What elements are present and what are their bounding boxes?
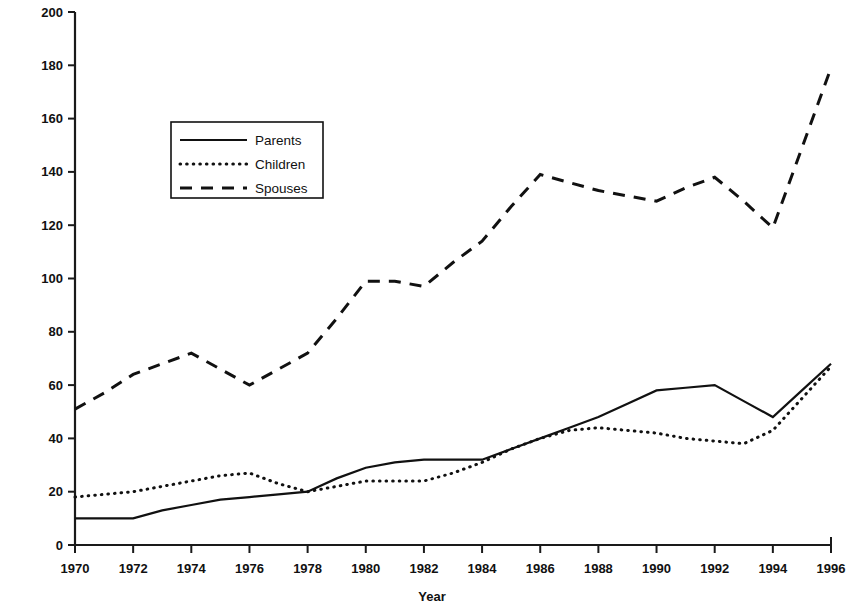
- y-tick-label: 0: [56, 538, 63, 553]
- x-tick-label: 1980: [351, 561, 380, 576]
- y-axis: 020406080100120140160180200: [41, 5, 75, 553]
- y-tick-label: 40: [49, 431, 63, 446]
- x-tick-label: 1994: [758, 561, 788, 576]
- x-tick-label: 1974: [177, 561, 207, 576]
- x-tick-label: 1996: [817, 561, 846, 576]
- x-tick-label: 1984: [468, 561, 498, 576]
- x-tick-label: 1978: [293, 561, 322, 576]
- chart-canvas: 020406080100120140160180200 197019721974…: [0, 0, 857, 614]
- x-axis: 1970197219741976197819801982198419861988…: [61, 537, 846, 576]
- x-axis-title: Year: [418, 589, 445, 604]
- y-tick-label: 180: [41, 58, 63, 73]
- y-tick-label: 200: [41, 5, 63, 20]
- y-tick-label: 160: [41, 111, 63, 126]
- x-tick-label: 1992: [700, 561, 729, 576]
- x-tick-label: 1970: [61, 561, 90, 576]
- y-tick-label: 20: [49, 484, 63, 499]
- y-tick-label: 60: [49, 378, 63, 393]
- y-tick-label: 120: [41, 218, 63, 233]
- y-tick-label: 80: [49, 324, 63, 339]
- line-chart: 020406080100120140160180200 197019721974…: [0, 0, 857, 614]
- y-tick-label: 140: [41, 164, 63, 179]
- x-tick-label: 1982: [409, 561, 438, 576]
- x-tick-label: 1986: [526, 561, 555, 576]
- x-tick-label: 1976: [235, 561, 264, 576]
- legend-label-parents: Parents: [255, 133, 302, 148]
- x-tick-label: 1988: [584, 561, 613, 576]
- series-line-spouses: [75, 68, 831, 409]
- legend-label-children: Children: [255, 157, 305, 172]
- x-tick-label: 1990: [642, 561, 671, 576]
- chart-legend: ParentsChildrenSpouses: [171, 122, 323, 198]
- y-tick-label: 100: [41, 271, 63, 286]
- legend-label-spouses: Spouses: [255, 181, 308, 196]
- x-tick-label: 1972: [119, 561, 148, 576]
- series-line-parents: [75, 364, 831, 519]
